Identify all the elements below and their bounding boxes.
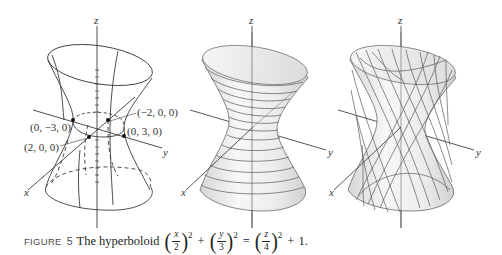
plus-sign: +: [198, 234, 205, 249]
term-z-over-4: ( z4 ) 2: [255, 230, 283, 252]
figure-number: 5: [67, 235, 73, 247]
equals-sign: =: [243, 234, 250, 249]
point-2-0-0: [87, 135, 91, 139]
panel-ruled-lines: [334, 26, 474, 228]
y-axis-label: y: [162, 146, 168, 158]
point-neg2-0-0: [106, 118, 110, 122]
figure-label: FIGURE: [24, 236, 62, 247]
z-axis-label: z: [397, 14, 403, 26]
top-ellipse: [45, 38, 156, 92]
term-x-over-2: ( x2 ) 2: [165, 230, 193, 252]
point-0-3-0: [122, 134, 126, 138]
x-axis-label: x: [328, 186, 334, 198]
point-label-0-3-0: (0, 3, 0): [127, 125, 162, 138]
caption-text: The hyperboloid: [77, 234, 160, 249]
x-axis-label: x: [23, 186, 29, 198]
z-axis-label: z: [248, 14, 254, 26]
z-axis-label: z: [93, 14, 99, 26]
point-label-2-0-0: (2, 0, 0): [24, 141, 59, 154]
term-y-over-3: ( y3 ) 2: [210, 230, 238, 252]
point-label-0-neg3-0: (0, −3, 0): [30, 121, 71, 134]
panel-wireframe-labels: z y x (0, −3, 0) (−2, 0, 0) (0, 3, 0) (2…: [23, 14, 178, 198]
panel-horizontal-traces: [186, 26, 326, 228]
x-axis-label: x: [180, 186, 186, 198]
point-0-neg3-0: [71, 118, 75, 122]
point-label-neg2-0-0: (−2, 0, 0): [137, 106, 178, 119]
figure-caption: FIGURE 5 The hyperboloid ( x2 ) 2 + ( y3…: [24, 230, 308, 252]
y-axis-label: y: [327, 146, 333, 158]
hyperboloid-figure: z y x (0, −3, 0) (−2, 0, 0) (0, 3, 0) (2…: [0, 0, 502, 230]
y-axis-label: y: [475, 146, 481, 158]
constant-term: 1.: [298, 234, 307, 249]
plus-sign: +: [287, 234, 294, 249]
